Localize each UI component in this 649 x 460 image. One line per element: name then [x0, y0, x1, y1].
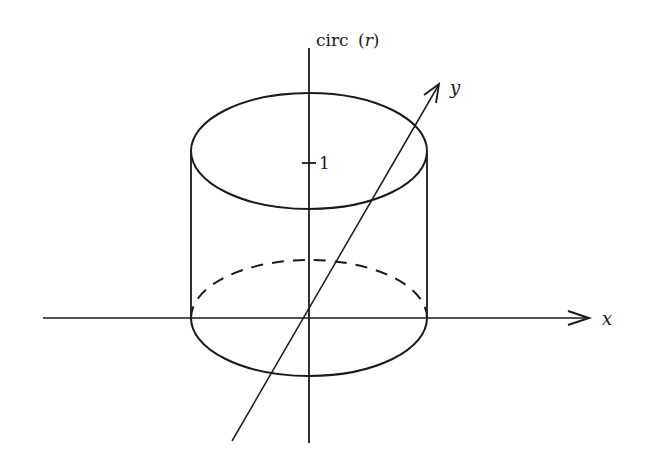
tick-label-1: 1: [319, 153, 330, 173]
cylinder-diagram: circ (r) 1 y x: [0, 0, 649, 460]
y-axis-label: y: [449, 77, 461, 98]
vertical-axis-label: circ (r): [316, 30, 379, 50]
x-axis-label: x: [602, 308, 612, 329]
y-axis-line: [232, 86, 438, 441]
